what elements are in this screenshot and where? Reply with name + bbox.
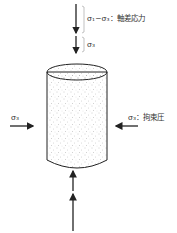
brace-deviatoric	[82, 6, 84, 33]
label-sigma3-top: σ₃	[87, 40, 95, 49]
label-sigma3-left: σ₃	[11, 113, 19, 122]
specimen-cylinder	[47, 64, 107, 168]
brace-sigma3	[82, 37, 84, 52]
triaxial-diagram: σ₁−σ₃：軸差応力 σ₃ σ₃ σ₃：拘束圧	[0, 0, 177, 233]
label-confining-pressure: σ₃：拘束圧	[128, 112, 165, 122]
label-deviatoric-stress: σ₁−σ₃：軸差応力	[87, 13, 145, 23]
